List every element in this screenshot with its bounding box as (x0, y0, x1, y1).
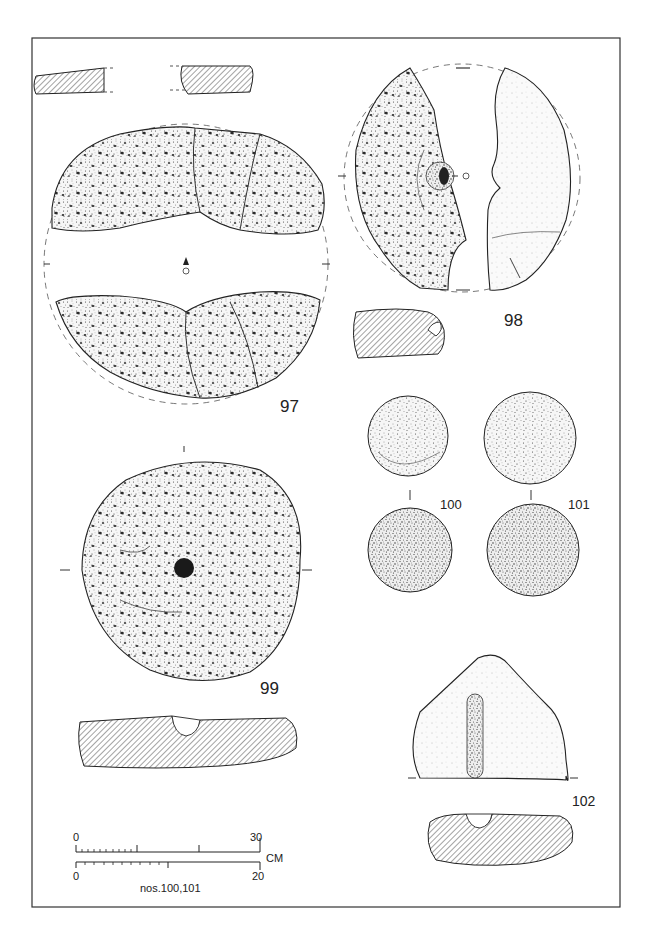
ball-101-bottom (487, 504, 579, 596)
scale-bar (76, 838, 260, 870)
label-101: 101 (568, 497, 590, 512)
label-97: 97 (280, 397, 299, 416)
upper-view-97 (52, 127, 324, 234)
object-97 (34, 66, 330, 404)
object-100 (368, 396, 452, 592)
object-102 (408, 655, 578, 865)
ball-101-top (484, 392, 576, 484)
label-98: 98 (504, 311, 523, 330)
object-98 (338, 64, 580, 358)
grooved-stone-102 (413, 655, 568, 780)
scale-upper-start: 0 (73, 831, 79, 843)
label-99: 99 (260, 679, 279, 698)
right-half-98 (487, 68, 570, 290)
center-mark-icon (183, 268, 189, 274)
section-102 (428, 814, 573, 865)
section-98 (353, 309, 444, 358)
perforation-98 (439, 167, 449, 185)
scale-unit: CM (266, 852, 283, 864)
scale-caption: nos.100,101 (140, 882, 201, 894)
archaeological-plate: 97 98 100 101 (0, 0, 653, 943)
groove-102 (467, 694, 483, 778)
label-102: 102 (572, 793, 596, 809)
object-99 (60, 446, 312, 768)
scale-upper-end: 30 (250, 831, 262, 843)
section-97-right (181, 66, 253, 94)
scale-lower-start: 0 (73, 870, 79, 882)
ball-100-bottom (368, 508, 452, 592)
section-97-left (34, 68, 104, 94)
arrow-icon (183, 257, 189, 265)
plate-drawing: 97 98 100 101 (0, 0, 653, 943)
object-101 (484, 392, 579, 596)
scale-lower-end: 20 (252, 870, 264, 882)
lower-view-97 (56, 292, 320, 399)
center-mark-icon (463, 173, 469, 179)
perforation-99 (174, 558, 194, 578)
label-100: 100 (440, 497, 462, 512)
